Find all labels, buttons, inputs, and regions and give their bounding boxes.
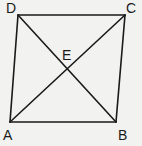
vertex-label-c: C xyxy=(126,0,136,16)
vertex-label-d: D xyxy=(6,0,16,16)
vertex-label-b: B xyxy=(118,127,127,143)
geometry-diagram: D C E A B xyxy=(0,0,142,146)
intersection-label-e: E xyxy=(62,47,71,63)
vertex-label-a: A xyxy=(3,127,13,143)
side-da xyxy=(10,15,18,122)
diagonal-bd xyxy=(18,15,116,122)
side-bc xyxy=(116,15,125,122)
